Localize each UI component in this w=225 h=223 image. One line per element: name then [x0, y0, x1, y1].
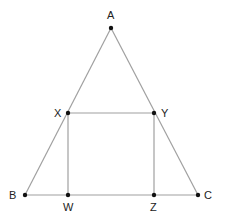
label-y: Y — [161, 107, 169, 119]
label-x: X — [54, 107, 62, 119]
labels: A B C X Y W Z — [9, 9, 212, 213]
label-a: A — [107, 9, 115, 21]
point-x — [66, 111, 70, 115]
point-b — [23, 193, 27, 197]
point-z — [152, 193, 156, 197]
geometry-diagram: A B C X Y W Z — [0, 0, 225, 223]
label-b: B — [9, 189, 16, 201]
points — [23, 26, 200, 197]
point-a — [109, 26, 113, 30]
point-y — [152, 111, 156, 115]
label-z: Z — [150, 201, 157, 213]
point-c — [196, 193, 200, 197]
label-c: C — [204, 189, 212, 201]
label-w: W — [63, 201, 74, 213]
point-w — [66, 193, 70, 197]
segments — [25, 28, 198, 195]
